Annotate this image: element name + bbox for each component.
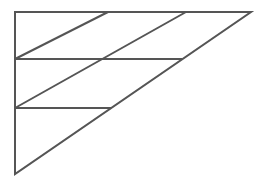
diagonal-line-1 [15, 12, 108, 59]
horizontal-lines [15, 59, 182, 108]
outer-triangle [15, 12, 251, 174]
triangle-diagram [0, 0, 269, 185]
